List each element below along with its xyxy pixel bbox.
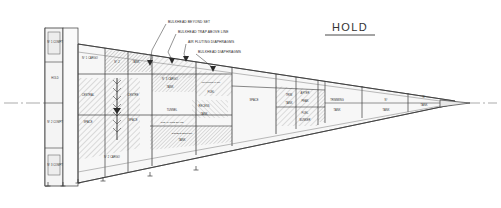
compartment-label: TANK xyxy=(201,112,208,116)
compartment-label: N° 2 xyxy=(114,60,120,64)
compartment-label: FUEL xyxy=(302,111,309,115)
compartment-label: TANK xyxy=(133,60,140,64)
compartment-label: CLEARANCE SPACE xyxy=(160,121,183,123)
left-end-structure xyxy=(45,28,78,186)
compartment-label: TANK xyxy=(383,108,390,112)
compartment-label: CENTRE xyxy=(128,93,139,97)
drawing-canvas: BULKHEAD BEYOND SETBULKHEAD TRAP ABOVE L… xyxy=(0,0,501,208)
compartment-label: PEAK xyxy=(301,99,308,103)
compartment-label: TRIM xyxy=(286,93,293,97)
compartment-label: TRIMMING xyxy=(330,98,344,102)
compartment-label: N° xyxy=(422,95,425,99)
compartment-label: N° xyxy=(384,98,387,102)
annotation-label: BULKHEAD TRAP ABOVE LINE xyxy=(178,30,229,34)
compartment-label: FUEL xyxy=(208,90,215,94)
compartment-label: TANK xyxy=(179,138,186,142)
compartment-label: SPACE xyxy=(250,98,259,102)
compartment-label: TUNNEL xyxy=(167,108,178,112)
compartment-label: TANK xyxy=(286,101,293,105)
compartment-label: AFTER xyxy=(301,91,310,95)
compartment-label: CENTRAL xyxy=(82,93,95,97)
compartment-label: SPACE xyxy=(129,118,138,122)
compartment-label: TANK xyxy=(334,108,341,112)
compartment-label: BUNKER xyxy=(299,118,310,122)
compartment-label: RECESS xyxy=(199,104,210,108)
compartment-label: HOLD xyxy=(51,76,58,80)
compartment-label: TANK xyxy=(167,85,174,89)
compartment-label: N° 3 CARGO xyxy=(162,77,178,81)
page-title: HOLD xyxy=(332,21,368,33)
hold-section-drawing: BULKHEAD BEYOND SETBULKHEAD TRAP ABOVE L… xyxy=(0,0,501,208)
compartment-label: N° 1 COMPT xyxy=(47,40,63,44)
compartment-label: TRIMMING TANK xyxy=(202,81,221,83)
compartment-label: N° 2 COMPT xyxy=(47,120,63,124)
annotation-label: AIR FLUTING DIAPHRAGMS xyxy=(188,40,235,44)
compartment-label: DOUBLE BOTTOM xyxy=(172,132,193,134)
compartment-label: N° 2 CARGO xyxy=(104,155,120,159)
compartment-label: TANK xyxy=(421,103,428,107)
drawing-title-group: HOLD xyxy=(325,21,375,35)
annotation-label: BULKHEAD DIAPHRAGMS xyxy=(198,50,242,54)
compartment-label: SPACE xyxy=(84,120,93,124)
compartment-label: N° 3 COMPT xyxy=(47,163,63,167)
annotation-label: BULKHEAD BEYOND SET xyxy=(168,20,210,24)
compartment-label: N° 1 CARGO xyxy=(82,56,98,60)
